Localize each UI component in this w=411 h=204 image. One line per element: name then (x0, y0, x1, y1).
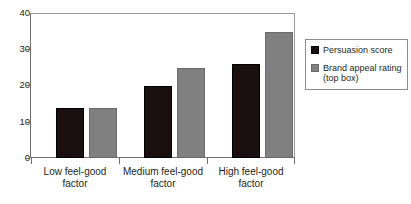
y-axis: 40 30 20 10 0 (0, 0, 30, 171)
bar-persuasion-high (232, 64, 260, 158)
y-tick-mark-0 (26, 158, 30, 159)
bar-persuasion-medium (144, 86, 172, 158)
y-tick-label-40: 40 (4, 8, 30, 18)
x-label-high: High feel-good factor (207, 166, 295, 189)
bar-brandappeal-medium (177, 68, 205, 158)
legend-label-brandappeal: Brand appeal rating (top box) (323, 63, 403, 84)
bar-persuasion-low (56, 108, 84, 158)
bar-brandappeal-low (89, 108, 117, 158)
x-label-low: Low feel-good factor (31, 166, 119, 189)
legend-item-brand-appeal-rating: Brand appeal rating (top box) (311, 63, 403, 84)
x-label-medium: Medium feel-good factor (119, 166, 207, 189)
x-tick-1 (119, 158, 120, 164)
x-tick-0 (31, 158, 32, 164)
legend: Persuasion score Brand appeal rating (to… (305, 39, 408, 90)
legend-swatch-icon-brandappeal (311, 64, 319, 72)
legend-item-persuasion-score: Persuasion score (311, 45, 403, 56)
bar-chart: 40 30 20 10 0 Low feel-good factor Mediu… (0, 0, 411, 204)
bar-brandappeal-high (265, 32, 293, 158)
plot-area (31, 14, 294, 158)
legend-label-persuasion: Persuasion score (323, 45, 393, 56)
x-tick-3 (294, 158, 295, 164)
x-tick-2 (207, 158, 208, 164)
legend-swatch-icon-persuasion (311, 46, 319, 54)
